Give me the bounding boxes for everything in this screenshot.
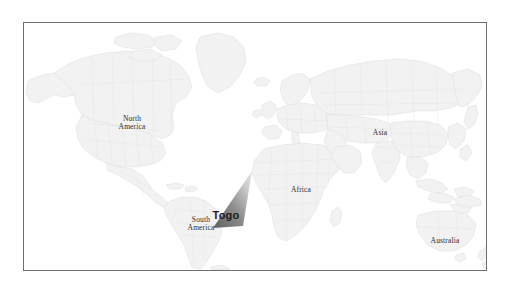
map-frame: .land { fill: #f2f2f2; stroke: #dcdcdc; … [23,22,487,271]
world-map-figure: .land { fill: #f2f2f2; stroke: #dcdcdc; … [0,0,511,291]
world-map-graphic: .land { fill: #f2f2f2; stroke: #dcdcdc; … [24,23,486,270]
togo-label: Togo [213,209,240,221]
